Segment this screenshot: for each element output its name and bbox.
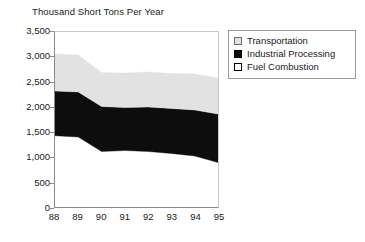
chart-title: Thousand Short Tons Per Year [32, 6, 164, 17]
legend-label: Transportation [247, 36, 308, 46]
x-axis-tick-label: 94 [183, 212, 207, 222]
x-axis-tick-label: 89 [66, 212, 90, 222]
legend-label: Fuel Combustion [247, 62, 319, 72]
x-axis-tick-label: 90 [89, 212, 113, 222]
y-axis-tick-label: 3,000 [2, 51, 50, 61]
y-axis-tick-label: 2,500 [2, 77, 50, 87]
plot-svg [55, 32, 218, 207]
x-axis: 8889909192939495 [0, 210, 365, 230]
chart-legend: TransportationIndustrial ProcessingFuel … [228, 30, 356, 79]
x-axis-tick-label: 88 [42, 212, 66, 222]
y-axis-tick-label: 1,500 [2, 127, 50, 137]
x-axis-tick-label: 95 [207, 212, 231, 222]
legend-swatch-icon [234, 63, 242, 71]
y-axis: 05001,0001,5002,0002,5003,0003,500 [0, 0, 50, 242]
legend-item: Industrial Processing [234, 48, 351, 60]
legend-swatch-icon [234, 37, 242, 45]
area-chart: Thousand Short Tons Per Year 05001,0001,… [0, 0, 365, 242]
legend-item: Fuel Combustion [234, 61, 351, 73]
legend-label: Industrial Processing [247, 49, 335, 59]
y-axis-tick-label: 500 [2, 178, 50, 188]
x-axis-tick-label: 92 [136, 212, 160, 222]
plot-area [54, 31, 219, 208]
legend-swatch-icon [234, 50, 242, 58]
y-axis-tick-label: 2,000 [2, 102, 50, 112]
y-axis-tick-label: 3,500 [2, 26, 50, 36]
x-axis-tick-label: 91 [113, 212, 137, 222]
y-axis-tick-label: 1,000 [2, 152, 50, 162]
x-axis-tick-label: 93 [160, 212, 184, 222]
legend-item: Transportation [234, 35, 351, 47]
y-axis-tick-mark [50, 208, 54, 209]
